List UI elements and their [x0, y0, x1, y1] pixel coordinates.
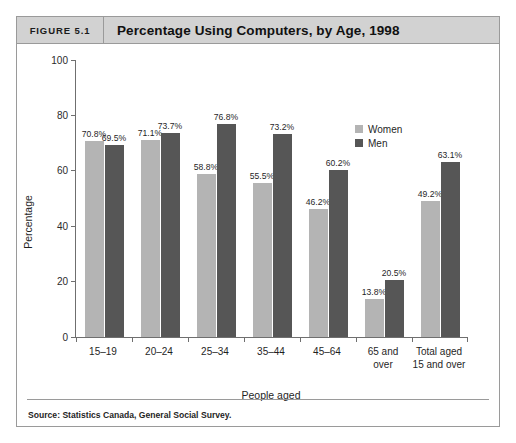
legend-swatch-women-icon — [355, 125, 363, 133]
bar-women[interactable]: 46.2% — [309, 60, 328, 337]
x-tick-mark — [356, 337, 357, 342]
x-tick-mark — [412, 337, 413, 342]
bar-rect — [421, 201, 440, 337]
source-divider — [27, 399, 489, 400]
legend-swatch-men-icon — [355, 139, 363, 147]
bar-group: 49.2%63.1% — [412, 60, 468, 337]
bar-group: 55.5%73.2% — [244, 60, 300, 337]
bar-value-label: 46.2% — [306, 197, 330, 209]
bar-rect — [217, 124, 236, 337]
bar-value-label: 60.2% — [326, 158, 350, 170]
bar-men[interactable]: 63.1% — [441, 60, 460, 337]
x-tick-label: 20–24 — [131, 346, 187, 371]
bar-rect — [141, 140, 160, 337]
bar-women[interactable]: 49.2% — [421, 60, 440, 337]
source-note: Source: Statistics Canada, General Socia… — [28, 410, 231, 420]
bar-rect — [365, 299, 384, 337]
bar-rect — [197, 174, 216, 337]
figure-title: Percentage Using Computers, by Age, 1998 — [104, 23, 400, 38]
bar-value-label: 55.5% — [250, 171, 274, 183]
x-tick-label: 25–34 — [187, 346, 243, 371]
bar-rect — [85, 141, 104, 337]
bar-women[interactable]: 58.8% — [197, 60, 216, 337]
y-tick-label: 40 — [57, 221, 71, 232]
x-tick-label: 35–44 — [243, 346, 299, 371]
x-tick-mark — [467, 337, 468, 342]
y-tick-label: 20 — [57, 276, 71, 287]
figure-header: FIGURE 5.1 Percentage Using Computers, b… — [17, 17, 499, 44]
bar-men[interactable]: 73.7% — [161, 60, 180, 337]
bars-layer: 70.8%69.5%71.1%73.7%58.8%76.8%55.5%73.2%… — [76, 60, 468, 337]
legend-label-men: Men — [368, 138, 387, 149]
bar-value-label: 20.5% — [382, 268, 406, 280]
y-tick-label: 0 — [62, 332, 71, 343]
y-axis-title: Percentage — [22, 195, 34, 249]
x-tick-mark — [132, 337, 133, 342]
bar-men[interactable]: 76.8% — [217, 60, 236, 337]
bar-rect — [161, 133, 180, 337]
bar-rect — [273, 134, 292, 337]
bar-women[interactable]: 13.8% — [365, 60, 384, 337]
legend-item-men: Men — [355, 136, 402, 150]
chart-legend: Women Men — [355, 122, 402, 150]
bar-value-label: 73.7% — [158, 121, 182, 133]
y-tick-label: 100 — [51, 55, 71, 66]
bar-value-label: 69.5% — [102, 133, 126, 145]
x-tick-label: 45–64 — [299, 346, 355, 371]
bar-rect — [309, 209, 328, 337]
bar-rect — [253, 183, 272, 337]
plot-area: 020406080100 70.8%69.5%71.1%73.7%58.8%76… — [75, 60, 468, 338]
y-tick-label: 60 — [57, 165, 71, 176]
legend-label-women: Women — [368, 124, 402, 135]
y-tick-label: 80 — [57, 110, 71, 121]
bar-rect — [329, 170, 348, 337]
bar-men[interactable]: 69.5% — [105, 60, 124, 337]
bar-women[interactable]: 55.5% — [253, 60, 272, 337]
legend-item-women: Women — [355, 122, 402, 136]
x-tick-mark — [244, 337, 245, 342]
bar-men[interactable]: 73.2% — [273, 60, 292, 337]
bar-men[interactable]: 20.5% — [385, 60, 404, 337]
x-tick-label: 65 andover — [355, 346, 411, 371]
bar-group: 70.8%69.5% — [76, 60, 132, 337]
bar-group: 46.2%60.2% — [300, 60, 356, 337]
x-tick-mark — [76, 337, 77, 342]
bar-group: 58.8%76.8% — [188, 60, 244, 337]
bar-value-label: 13.8% — [362, 287, 386, 299]
figure-number: FIGURE 5.1 — [17, 25, 103, 36]
x-tick-label: Total aged15 and over — [411, 346, 467, 371]
x-tick-mark — [300, 337, 301, 342]
bar-women[interactable]: 70.8% — [85, 60, 104, 337]
bar-rect — [385, 280, 404, 337]
x-axis-labels: 15–1920–2425–3435–4445–6465 andoverTotal… — [75, 346, 467, 371]
bar-rect — [105, 145, 124, 338]
x-tick-mark — [188, 337, 189, 342]
bar-value-label: 73.2% — [270, 122, 294, 134]
chart-plot-body: Percentage 020406080100 70.8%69.5%71.1%7… — [17, 44, 499, 399]
bar-group: 13.8%20.5% — [356, 60, 412, 337]
bar-men[interactable]: 60.2% — [329, 60, 348, 337]
bar-rect — [441, 162, 460, 337]
figure-card: FIGURE 5.1 Percentage Using Computers, b… — [16, 16, 500, 427]
x-tick-label: 15–19 — [75, 346, 131, 371]
bar-women[interactable]: 71.1% — [141, 60, 160, 337]
bar-value-label: 58.8% — [194, 162, 218, 174]
bar-value-label: 76.8% — [214, 112, 238, 124]
bar-value-label: 63.1% — [438, 150, 462, 162]
bar-value-label: 49.2% — [418, 189, 442, 201]
bar-group: 71.1%73.7% — [132, 60, 188, 337]
